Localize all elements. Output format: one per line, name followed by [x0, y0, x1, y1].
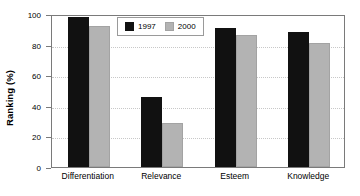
bar-1997-knowledge — [288, 32, 309, 167]
legend-label: 2000 — [178, 22, 196, 31]
plot-area — [51, 15, 345, 168]
bar-1997-esteem — [215, 28, 236, 167]
legend-entry: 2000 — [165, 22, 196, 31]
x-axis-tick-label: Esteem — [220, 171, 249, 181]
y-axis-tick-label: 20 — [15, 133, 41, 142]
bar-2000-knowledge — [309, 43, 330, 167]
bar-2000-relevance — [162, 123, 183, 167]
bar-2000-esteem — [236, 35, 257, 167]
legend-swatch-icon — [125, 22, 134, 31]
y-axis-tick-label: 0 — [15, 164, 41, 173]
bar-1997-relevance — [141, 97, 162, 167]
legend-label: 1997 — [138, 22, 156, 31]
legend-swatch-icon — [165, 22, 174, 31]
x-axis-tick-label: Relevance — [141, 171, 181, 181]
y-axis-tick-label: 80 — [15, 41, 41, 50]
y-axis-tick-label: 100 — [15, 11, 41, 20]
legend-entry: 1997 — [125, 22, 156, 31]
bar-2000-differentiation — [89, 26, 110, 167]
y-axis-tick-label: 60 — [15, 72, 41, 81]
y-axis-tick-label: 40 — [15, 102, 41, 111]
y-axis-tick-mark — [46, 168, 51, 169]
bar-1997-differentiation — [68, 17, 89, 167]
chart-legend: 19972000 — [117, 17, 204, 36]
x-axis-tick-label: Knowledge — [287, 171, 329, 181]
bar-chart-figure: Ranking (%) 020406080100 Differentiation… — [0, 0, 360, 196]
x-axis-tick-label: Differentiation — [62, 171, 114, 181]
